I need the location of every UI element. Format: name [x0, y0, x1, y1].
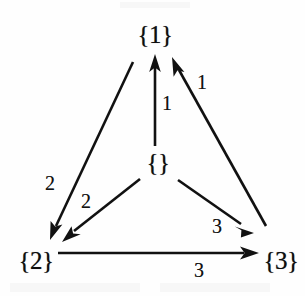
edge-empty-to-1	[149, 54, 161, 146]
edge-label-empty-to-1: 1	[162, 92, 172, 115]
diagram-canvas: {1} {} {2} {3} 1 1 2 2 3 3	[0, 0, 305, 296]
node-label-set3: {3}	[264, 247, 299, 275]
edge-3-to-1	[172, 57, 266, 226]
edge-2-to-3	[58, 247, 259, 260]
node-label-set1: {1}	[138, 21, 173, 49]
edge-label-empty-to-2: 2	[81, 190, 91, 213]
edge-label-3-to-1: 1	[197, 71, 207, 94]
node-label-set2: {2}	[19, 247, 54, 275]
edge-label-2-to-3: 3	[194, 259, 204, 282]
node-label-emptyset: {}	[147, 149, 170, 177]
edge-1-to-2	[50, 62, 133, 240]
edge-label-1-to-2: 2	[45, 172, 55, 195]
edge-label-empty-to-3: 3	[212, 215, 222, 238]
